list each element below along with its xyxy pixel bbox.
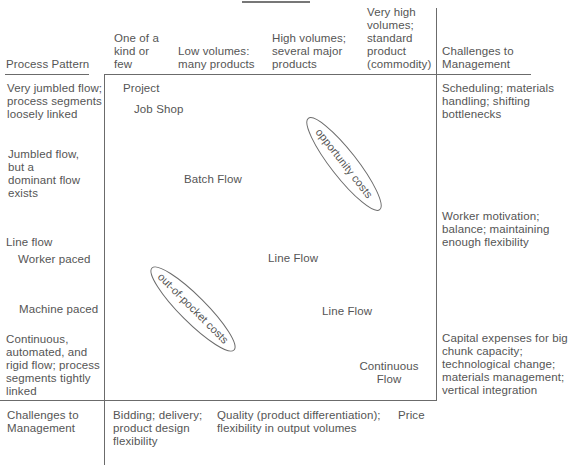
challenge-scheduling: Scheduling; materials handling; shifting… bbox=[442, 82, 554, 121]
header-divider-line bbox=[104, 74, 531, 75]
column-header-one-of-a-kind: One of a kind or few bbox=[114, 32, 159, 71]
top-fragment-line bbox=[242, 1, 310, 3]
matrix-bottom-axis bbox=[0, 400, 437, 401]
matrix-item-line-flow-1: Line Flow bbox=[268, 252, 318, 265]
opportunity-costs-ellipse: opportunity costs bbox=[296, 116, 392, 212]
right-header-challenges: Challenges to Management bbox=[442, 45, 514, 71]
row-label-very-jumbled: Very jumbled flow; process segments loos… bbox=[7, 82, 102, 121]
process-pattern-underline bbox=[5, 74, 89, 75]
row-label-line-flow: Line flow bbox=[6, 236, 52, 249]
footer-bidding: Bidding; delivery; product design flexib… bbox=[113, 409, 202, 448]
matrix-right-axis bbox=[436, 8, 437, 401]
footer-quality: Quality (product differentiation); flexi… bbox=[217, 409, 381, 435]
matrix-item-project: Project bbox=[123, 82, 160, 95]
footer-price: Price bbox=[398, 409, 425, 422]
challenge-worker-motivation: Worker motivation; balance; maintaining … bbox=[442, 210, 550, 249]
matrix-item-batch-flow: Batch Flow bbox=[184, 173, 242, 186]
column-header-low-volumes: Low volumes: many products bbox=[178, 45, 255, 71]
matrix-item-line-flow-2: Line Flow bbox=[322, 305, 372, 318]
footer-challenges-label: Challenges to Management bbox=[7, 409, 79, 435]
matrix-left-axis bbox=[104, 74, 105, 465]
matrix-item-continuous-flow: Continuous Flow bbox=[356, 360, 422, 386]
row-label-jumbled: Jumbled flow, but a dominant flow exists bbox=[8, 148, 80, 200]
matrix-item-job-shop: Job Shop bbox=[134, 103, 183, 116]
row-label-machine-paced: Machine paced bbox=[19, 303, 98, 316]
row-label-continuous: Continuous, automated, and rigid flow; p… bbox=[6, 333, 100, 398]
column-header-very-high-volumes: Very high volumes; standard product (com… bbox=[367, 6, 431, 71]
challenge-capital-expenses: Capital expenses for big chunk capacity;… bbox=[442, 332, 568, 397]
process-pattern-title: Process Pattern bbox=[6, 58, 89, 71]
row-label-worker-paced: Worker paced bbox=[18, 253, 91, 266]
column-header-high-volumes: High volumes; several major products bbox=[272, 32, 346, 71]
out-of-pocket-costs-ellipse: out-of-pocket costs bbox=[146, 262, 240, 356]
